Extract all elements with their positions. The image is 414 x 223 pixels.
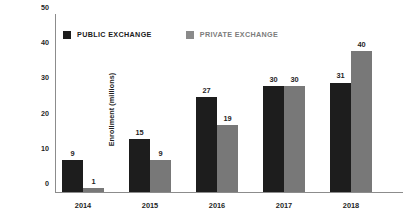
bar-private-2018[interactable]: 40 <box>351 51 372 192</box>
bar-pair: 91 <box>62 16 104 192</box>
bar-public-2014[interactable]: 9 <box>62 160 83 192</box>
bar-value-label: 40 <box>357 41 365 48</box>
bar-private-2015[interactable]: 9 <box>150 160 171 192</box>
bar-pair: 3030 <box>263 16 305 192</box>
x-axis-tick-label: 2015 <box>142 201 158 210</box>
bar-pair: 2719 <box>196 16 238 192</box>
bar-value-label: 30 <box>290 76 298 83</box>
x-axis-tick-label: 2016 <box>209 201 225 210</box>
x-axis-tick-label: 2018 <box>343 201 359 210</box>
bar-private-2016[interactable]: 19 <box>217 125 238 192</box>
bar-value-label: 30 <box>269 76 277 83</box>
bar-group: 912014 <box>62 16 104 192</box>
bar-public-2015[interactable]: 15 <box>129 139 150 192</box>
bar-value-label: 9 <box>158 150 162 157</box>
bar-chart: Enrollment (millions) PUBLIC EXCHANGE PR… <box>0 0 414 223</box>
y-axis-tick-label: 10 <box>41 143 55 152</box>
bar-group: 30302017 <box>263 16 305 192</box>
bar-value-label: 15 <box>135 129 143 136</box>
bar-group: 27192016 <box>196 16 238 192</box>
bar-private-2014[interactable]: 1 <box>83 188 104 192</box>
bar-value-label: 9 <box>70 150 74 157</box>
bar-private-2017[interactable]: 30 <box>284 86 305 192</box>
bar-public-2017[interactable]: 30 <box>263 86 284 192</box>
y-axis-tick-label: 30 <box>41 73 55 82</box>
x-axis-tick-label: 2017 <box>276 201 292 210</box>
y-axis-tick-label: 0 <box>45 179 55 188</box>
x-axis-tick-label: 2014 <box>75 201 91 210</box>
bar-value-label: 1 <box>91 178 95 185</box>
y-axis-tick-label: 50 <box>41 3 55 12</box>
bar-pair: 159 <box>129 16 171 192</box>
bar-value-label: 27 <box>202 87 210 94</box>
y-axis-tick-label: 20 <box>41 108 55 117</box>
plot-area: 0102030405091201415920152719201630302017… <box>55 16 400 192</box>
bar-group: 31402018 <box>330 16 372 192</box>
x-axis-line <box>55 192 403 193</box>
bar-value-label: 31 <box>336 72 344 79</box>
bar-group: 1592015 <box>129 16 171 192</box>
bar-pair: 3140 <box>330 16 372 192</box>
bar-public-2018[interactable]: 31 <box>330 83 351 192</box>
bar-value-label: 19 <box>223 115 231 122</box>
bar-public-2016[interactable]: 27 <box>196 97 217 192</box>
y-axis-tick-label: 40 <box>41 38 55 47</box>
